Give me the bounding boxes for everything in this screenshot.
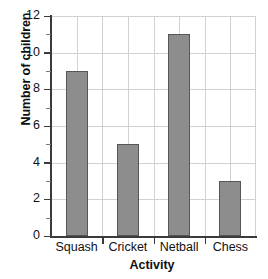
- x-tick-label-chess: Chess: [205, 240, 256, 254]
- y-tick-label: 4: [12, 156, 40, 169]
- y-tick-label: 8: [12, 82, 40, 95]
- x-tick-label-netball: Netball: [154, 240, 205, 254]
- y-tick-major: [44, 16, 51, 18]
- gridline-vertical: [255, 16, 256, 236]
- y-tick-minor: [46, 34, 51, 35]
- y-tick-minor: [46, 181, 51, 182]
- y-tick-label: 6: [12, 119, 40, 132]
- y-tick-major: [44, 52, 51, 54]
- y-tick-major: [44, 236, 51, 238]
- y-tick-minor: [46, 144, 51, 145]
- x-tick-label-squash: Squash: [51, 240, 102, 254]
- bar-squash: [66, 71, 88, 236]
- gridline-vertical: [154, 16, 155, 236]
- y-tick-label: 2: [12, 192, 40, 205]
- y-tick-label: 12: [12, 9, 40, 22]
- gridline-vertical: [102, 16, 103, 236]
- x-tick-label-cricket: Cricket: [102, 240, 153, 254]
- bar-netball: [168, 34, 190, 236]
- bar-chart: Number of children 024681012 SquashCrick…: [0, 0, 268, 279]
- y-tick-label: 10: [12, 46, 40, 59]
- y-tick-minor: [46, 108, 51, 109]
- plot-area: [51, 16, 256, 236]
- y-tick-minor: [46, 71, 51, 72]
- y-tick-major: [44, 162, 51, 164]
- y-tick-major: [44, 199, 51, 201]
- x-axis-title: Activity: [48, 258, 256, 272]
- y-tick-label: 0: [12, 229, 40, 242]
- y-tick-major: [44, 126, 51, 128]
- y-tick-major: [44, 89, 51, 91]
- y-tick-minor: [46, 218, 51, 219]
- bar-cricket: [117, 144, 139, 236]
- gridline-vertical: [205, 16, 206, 236]
- bar-chess: [219, 181, 241, 236]
